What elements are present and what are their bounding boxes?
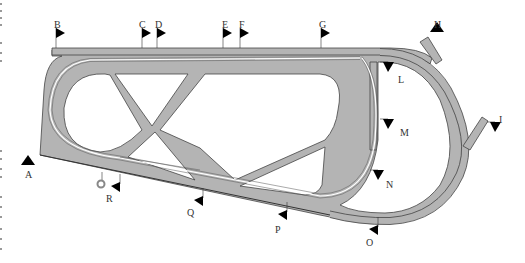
marker-label-e: E (222, 20, 228, 30)
marker-label-g: G (319, 20, 326, 30)
marker-label-h: H (434, 20, 441, 30)
flag-marker-d (157, 28, 166, 48)
marker-label-d: D (155, 20, 162, 30)
margin-residue (0, 3, 2, 250)
marker-label-c: C (139, 20, 146, 30)
start-ring-marker (98, 172, 105, 188)
marker-label-p: P (275, 225, 281, 235)
marker-label-q: Q (187, 208, 194, 218)
marker-label-a: A (25, 170, 32, 180)
flag-marker-b (56, 28, 65, 48)
flag-marker-g (321, 28, 330, 48)
track-diagram (0, 0, 525, 263)
marker-label-r: R (106, 194, 113, 204)
marker-label-o: O (366, 238, 373, 248)
flag-marker-a (21, 155, 35, 165)
flag-marker-r (111, 174, 120, 192)
flag-marker-f (240, 28, 249, 48)
flag-marker-e (223, 28, 232, 48)
marker-label-i: I (499, 115, 502, 125)
flag-marker-q (194, 188, 203, 206)
marker-label-b: B (54, 20, 61, 30)
marker-label-m: M (400, 128, 409, 138)
marker-label-f: F (239, 20, 245, 30)
flag-marker-c (142, 28, 151, 48)
marker-label-l: L (398, 75, 404, 85)
marker-label-n: N (386, 180, 393, 190)
